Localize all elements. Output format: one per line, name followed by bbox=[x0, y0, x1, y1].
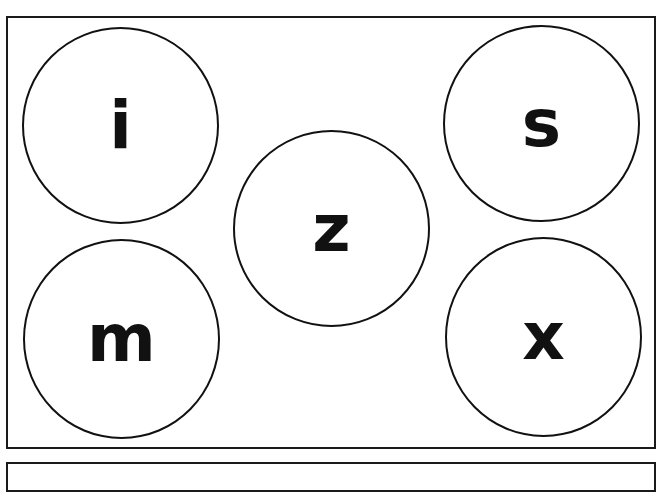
letter-m: m bbox=[87, 306, 156, 372]
letter-x: x bbox=[522, 304, 565, 370]
next-card-frame bbox=[6, 462, 656, 492]
letter-z: z bbox=[312, 196, 350, 262]
letter-circle-x[interactable]: x bbox=[445, 237, 642, 437]
letter-circle-i[interactable]: i bbox=[22, 27, 219, 224]
letter-circle-s[interactable]: s bbox=[443, 25, 640, 222]
letter-s: s bbox=[522, 91, 561, 157]
letter-circle-z[interactable]: z bbox=[233, 130, 430, 327]
letter-i: i bbox=[109, 93, 132, 159]
letter-circle-m[interactable]: m bbox=[23, 239, 220, 439]
